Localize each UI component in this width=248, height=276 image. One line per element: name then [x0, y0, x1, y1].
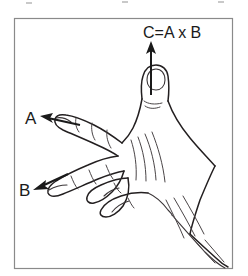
figure-container: right-hand-rule-cross-product Line drawi… [0, 0, 248, 276]
label-vector-b: B [19, 181, 30, 200]
page-background [0, 0, 248, 276]
right-hand-rule-diagram: right-hand-rule-cross-product Line drawi… [0, 0, 248, 276]
label-c-equals-a-cross-b: C=A x B [143, 24, 201, 41]
label-vector-a: A [25, 109, 37, 128]
